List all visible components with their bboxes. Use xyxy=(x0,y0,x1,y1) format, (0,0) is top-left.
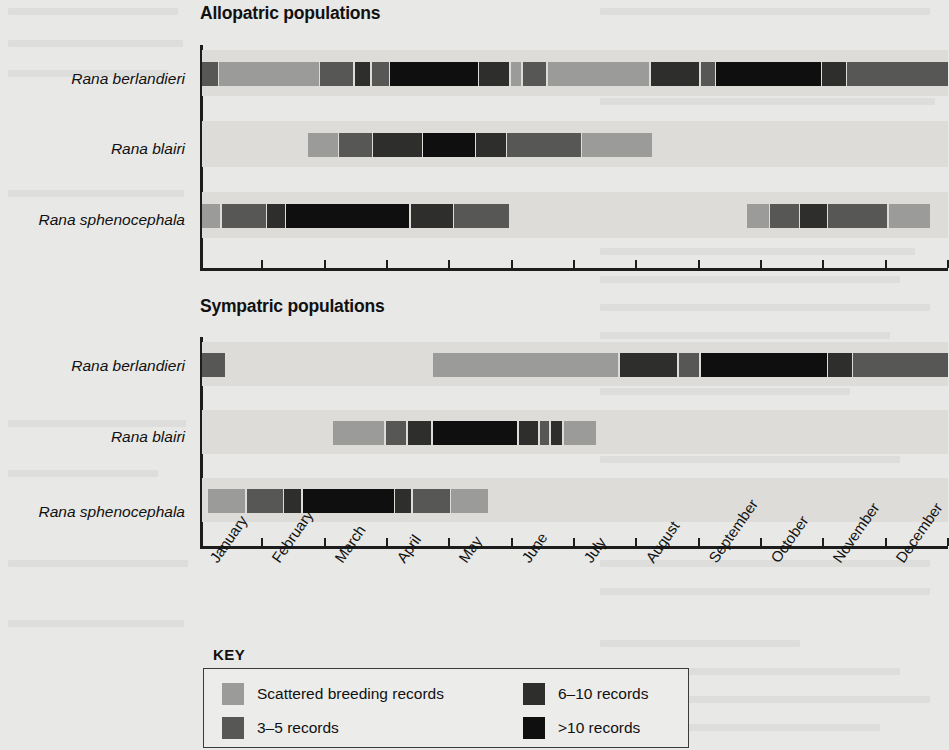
row-label-sympatric-blairi: Rana blairi xyxy=(0,428,185,446)
panel-title-allopatric: Allopatric populations xyxy=(200,3,380,24)
x-axis-allopatric xyxy=(200,268,948,271)
tick-allopatric-4 xyxy=(448,260,450,268)
segment-allopatric-rana-blairi-0 xyxy=(308,133,338,157)
segment-allopatric-rana-sphenocephala-6 xyxy=(747,204,768,228)
segment-sympatric-rana-berlandieri-3 xyxy=(679,353,699,377)
row-label-allopatric-blairi: Rana blairi xyxy=(0,140,185,158)
row-label-allopatric-berlandieri: Rana berlandieri xyxy=(0,70,185,88)
tick-sympatric-5 xyxy=(511,538,513,546)
row-label-sympatric-berlandieri: Rana berlandieri xyxy=(0,357,185,375)
segment-sympatric-rana-blairi-5 xyxy=(540,421,550,445)
segment-allopatric-rana-sphenocephala-8 xyxy=(800,204,826,228)
row-label-allopatric-sphenocephala: Rana sphenocephala xyxy=(0,211,185,229)
tick-sympatric-3 xyxy=(386,538,388,546)
tick-allopatric-6 xyxy=(573,260,575,268)
tick-sympatric-9 xyxy=(760,538,762,546)
key-swatch-0 xyxy=(222,683,244,705)
segment-sympatric-rana-blairi-1 xyxy=(386,421,406,445)
panel-title-sympatric: Sympatric populations xyxy=(200,296,384,317)
segment-allopatric-rana-sphenocephala-10 xyxy=(889,204,930,228)
tick-sympatric-7 xyxy=(635,538,637,546)
segment-sympatric-rana-sphenocephala-6 xyxy=(451,489,488,513)
segment-allopatric-rana-sphenocephala-7 xyxy=(770,204,798,228)
segment-sympatric-rana-sphenocephala-2 xyxy=(284,489,301,513)
segment-allopatric-rana-berlandieri-3 xyxy=(355,62,370,86)
segment-sympatric-rana-berlandieri-6 xyxy=(853,353,948,377)
segment-sympatric-rana-sphenocephala-0 xyxy=(208,489,245,513)
plot-area-allopatric xyxy=(200,45,948,270)
key-title: KEY xyxy=(213,646,245,663)
tick-allopatric-1 xyxy=(261,260,263,268)
tick-allopatric-5 xyxy=(511,260,513,268)
segment-allopatric-rana-berlandieri-13 xyxy=(822,62,845,86)
tick-allopatric-7 xyxy=(635,260,637,268)
key-swatch-1 xyxy=(222,717,244,739)
key-swatch-2 xyxy=(523,683,545,705)
tick-allopatric-11 xyxy=(885,260,887,268)
bar-sympatric-rana-blairi xyxy=(202,421,948,445)
segment-sympatric-rana-berlandieri-1 xyxy=(433,353,618,377)
segment-allopatric-rana-sphenocephala-5 xyxy=(454,204,509,228)
segment-sympatric-rana-berlandieri-5 xyxy=(828,353,851,377)
segment-allopatric-rana-sphenocephala-0 xyxy=(202,204,220,228)
key-label-3: >10 records xyxy=(558,719,640,737)
tick-sympatric-11 xyxy=(885,538,887,546)
segment-allopatric-rana-blairi-5 xyxy=(507,133,580,157)
segment-allopatric-rana-berlandieri-5 xyxy=(390,62,478,86)
segment-allopatric-rana-sphenocephala-9 xyxy=(828,204,887,228)
segment-sympatric-rana-blairi-6 xyxy=(551,421,562,445)
key-label-0: Scattered breeding records xyxy=(257,685,444,703)
segment-allopatric-rana-berlandieri-10 xyxy=(651,62,699,86)
segment-sympatric-rana-sphenocephala-3 xyxy=(303,489,394,513)
key-item-0: Scattered breeding records xyxy=(222,683,444,705)
key-swatch-3 xyxy=(523,717,545,739)
bar-sympatric-rana-sphenocephala xyxy=(202,489,948,513)
segment-allopatric-rana-berlandieri-0 xyxy=(202,62,218,86)
segment-allopatric-rana-berlandieri-9 xyxy=(548,62,649,86)
tick-allopatric-9 xyxy=(760,260,762,268)
tick-sympatric-8 xyxy=(698,538,700,546)
segment-allopatric-rana-berlandieri-14 xyxy=(847,62,948,86)
segment-sympatric-rana-sphenocephala-4 xyxy=(395,489,411,513)
tick-allopatric-3 xyxy=(386,260,388,268)
tick-sympatric-4 xyxy=(448,538,450,546)
row-label-sympatric-sphenocephala: Rana sphenocephala xyxy=(0,503,185,521)
bar-sympatric-rana-berlandieri xyxy=(202,353,948,377)
segment-allopatric-rana-blairi-2 xyxy=(373,133,421,157)
segment-sympatric-rana-blairi-4 xyxy=(519,421,539,445)
tick-sympatric-10 xyxy=(822,538,824,546)
bar-allopatric-rana-sphenocephala xyxy=(202,204,948,228)
segment-allopatric-rana-sphenocephala-2 xyxy=(267,204,284,228)
key-label-1: 3–5 records xyxy=(257,719,339,737)
segment-allopatric-rana-sphenocephala-3 xyxy=(286,204,409,228)
segment-sympatric-rana-berlandieri-2 xyxy=(620,353,678,377)
segment-allopatric-rana-berlandieri-12 xyxy=(716,62,820,86)
tick-allopatric-10 xyxy=(822,260,824,268)
segment-sympatric-rana-sphenocephala-1 xyxy=(247,489,283,513)
key-item-2: 6–10 records xyxy=(523,683,648,705)
segment-allopatric-rana-blairi-1 xyxy=(339,133,372,157)
segment-allopatric-rana-sphenocephala-4 xyxy=(411,204,453,228)
segment-allopatric-rana-blairi-4 xyxy=(476,133,506,157)
tick-allopatric-2 xyxy=(324,260,326,268)
tick-sympatric-1 xyxy=(261,538,263,546)
segment-allopatric-rana-berlandieri-8 xyxy=(523,62,546,86)
segment-sympatric-rana-sphenocephala-5 xyxy=(413,489,450,513)
segment-allopatric-rana-sphenocephala-1 xyxy=(222,204,266,228)
segment-allopatric-rana-berlandieri-11 xyxy=(701,62,715,86)
segment-sympatric-rana-blairi-0 xyxy=(333,421,384,445)
segment-sympatric-rana-blairi-3 xyxy=(433,421,517,445)
segment-allopatric-rana-blairi-3 xyxy=(423,133,474,157)
segment-allopatric-rana-berlandieri-7 xyxy=(511,62,522,86)
segment-sympatric-rana-blairi-2 xyxy=(408,421,431,445)
tick-sympatric-6 xyxy=(573,538,575,546)
bar-allopatric-rana-berlandieri xyxy=(202,62,948,86)
segment-sympatric-rana-blairi-7 xyxy=(564,421,597,445)
key-label-2: 6–10 records xyxy=(558,685,648,703)
key-item-3: >10 records xyxy=(523,717,640,739)
segment-allopatric-rana-berlandieri-1 xyxy=(219,62,318,86)
key-item-1: 3–5 records xyxy=(222,717,339,739)
segment-sympatric-rana-berlandieri-0 xyxy=(202,353,225,377)
segment-allopatric-rana-blairi-6 xyxy=(582,133,652,157)
